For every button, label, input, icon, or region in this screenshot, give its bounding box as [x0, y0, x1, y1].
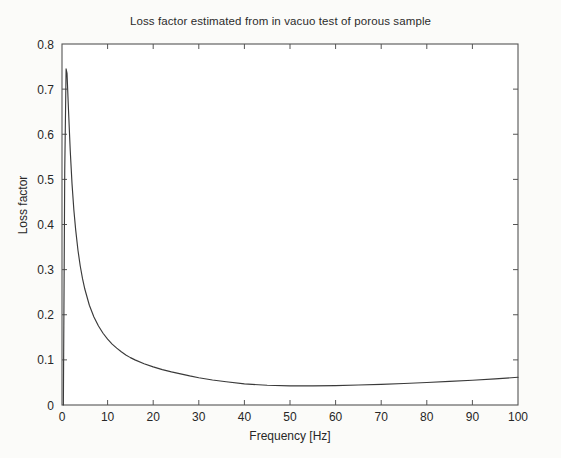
y-tick-label: 0.7 — [37, 83, 54, 97]
y-tick-label: 0.3 — [37, 263, 54, 277]
y-tick-label: 0.1 — [37, 353, 54, 367]
figure-canvas: Loss factor estimated from in vacuo test… — [0, 0, 561, 458]
y-tick-label: 0.6 — [37, 128, 54, 142]
y-tick-label: 0.4 — [37, 218, 54, 232]
x-tick-label: 0 — [59, 410, 66, 424]
y-tick-label: 0.2 — [37, 308, 54, 322]
y-tick-label: 0 — [47, 399, 54, 413]
x-tick-label: 40 — [238, 410, 252, 424]
y-tick-label: 0.8 — [37, 38, 54, 52]
plot-frame — [62, 44, 518, 405]
x-tick-label: 50 — [283, 410, 297, 424]
x-tick-label: 100 — [508, 410, 528, 424]
x-tick-label: 20 — [147, 410, 161, 424]
x-tick-label: 10 — [101, 410, 115, 424]
plot-area: 0102030405060708090100 00.10.20.30.40.50… — [0, 0, 561, 458]
y-tick-label: 0.5 — [37, 173, 54, 187]
x-tick-label: 70 — [375, 410, 389, 424]
axes-frame — [62, 44, 518, 405]
x-tick-label: 30 — [192, 410, 206, 424]
x-axis-title: Frequency [Hz] — [249, 429, 330, 443]
y-tick-labels: 00.10.20.30.40.50.60.70.8 — [37, 38, 54, 413]
x-tick-label: 90 — [466, 410, 480, 424]
x-tick-label: 60 — [329, 410, 343, 424]
x-tick-labels: 0102030405060708090100 — [59, 410, 529, 424]
x-tick-label: 80 — [420, 410, 434, 424]
